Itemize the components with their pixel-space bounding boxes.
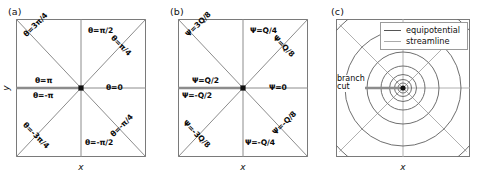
- panel-a-annotation-theta-zero: θ=0: [106, 84, 123, 92]
- panel-b-x-axis-label: x: [236, 162, 250, 172]
- panel-a-annotation-theta-pi: θ=π: [35, 77, 52, 85]
- branch-cut-label-line2: cut: [337, 83, 365, 91]
- equipotential-line-swatch: [384, 30, 401, 31]
- panel-a: (a) θ=3π/4 θ=π/2 θ=π/4 θ=π θ=-π θ=0 θ=-3…: [0, 0, 162, 183]
- panel-a-x-axis-label: x: [74, 162, 88, 172]
- legend-item-equipotential: equipotential: [384, 25, 463, 36]
- panel-c: (c): [325, 0, 485, 183]
- panel-a-y-axis-label: y: [1, 81, 11, 95]
- legend-label-equipotential: equipotential: [406, 26, 460, 34]
- panel-b-annotation-psi-q-over-4: Ψ=Q/4: [250, 27, 277, 35]
- panel-b-annotation-psi-minus-q-over-2: Ψ=-Q/2: [182, 92, 212, 100]
- panel-a-annotation-theta-minus-pi: θ=-π: [33, 92, 53, 100]
- panel-b-annotation-psi-zero: Ψ=0: [269, 84, 287, 92]
- panel-a-annotation-theta-pi-over-2: θ=π/2: [88, 27, 113, 35]
- legend-item-streamline: streamline: [384, 36, 463, 47]
- panel-a-annotation-theta-minus-pi-over-2: θ=-π/2: [85, 139, 113, 147]
- panel-b: (b) Ψ=3Q/8 Ψ=Q/4 Ψ=Q/8 Ψ=Q/2 Ψ=-Q/2 Ψ=0 …: [162, 0, 325, 183]
- panel-b-annotation-psi-q-over-2: Ψ=Q/2: [192, 77, 219, 85]
- source-point: [400, 85, 405, 90]
- figure-root: (a) θ=3π/4 θ=π/2 θ=π/4 θ=π θ=-π θ=0 θ=-3…: [0, 0, 485, 183]
- panel-b-annotation-psi-minus-q-over-4: Ψ=-Q/4: [245, 139, 275, 147]
- panel-c-x-axis-label: x: [396, 162, 410, 172]
- branch-cut-label: branch cut: [337, 75, 365, 92]
- legend-label-streamline: streamline: [406, 37, 449, 45]
- panel-a-lines: [0, 0, 162, 183]
- panel-c-legend: equipotential streamline: [380, 22, 468, 50]
- streamline-line-swatch: [384, 41, 401, 42]
